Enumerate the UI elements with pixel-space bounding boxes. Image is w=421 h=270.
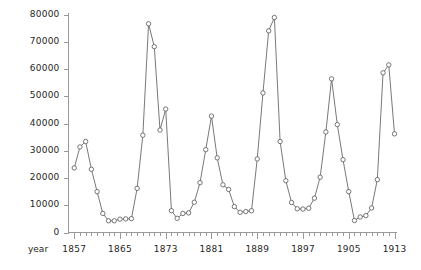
x-axis-tick-label: 1865 <box>95 244 145 254</box>
y-axis-tick-label: 60000 <box>30 63 60 73</box>
chart-container: 0100002000030000400005000060000700008000… <box>0 0 421 270</box>
data-line <box>74 18 394 221</box>
y-axis-tick-label: 30000 <box>30 145 60 155</box>
y-axis-tick-label: 50000 <box>30 90 60 100</box>
x-axis-tick-label: 1873 <box>141 244 191 254</box>
x-axis-tick-label: 1889 <box>232 244 282 254</box>
y-axis-tick-label: 0 <box>54 227 60 237</box>
tick-marks <box>64 16 396 239</box>
y-axis-tick-label: 40000 <box>30 118 60 128</box>
data-markers <box>72 15 397 223</box>
y-axis-tick-label: 10000 <box>30 199 60 209</box>
x-axis-tick-label: 1905 <box>324 244 374 254</box>
axis-lines <box>69 13 397 233</box>
x-axis-tick-label: 1857 <box>49 244 99 254</box>
x-axis-tick-label: 1913 <box>370 244 420 254</box>
x-axis-tick-label: 1897 <box>278 244 328 254</box>
x-axis-tick-label: 1881 <box>186 244 236 254</box>
x-axis-caption: year <box>28 244 48 254</box>
line-chart-plot <box>0 0 421 270</box>
y-axis-tick-label: 20000 <box>30 172 60 182</box>
y-axis-tick-label: 80000 <box>30 9 60 19</box>
y-axis-tick-label: 70000 <box>30 36 60 46</box>
